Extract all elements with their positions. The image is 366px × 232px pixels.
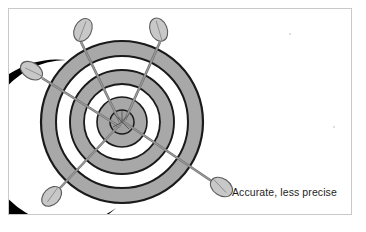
dartboard-target-illustration (8, 8, 352, 215)
speck-artifact-top (289, 33, 291, 35)
figure-root: Accurate, less precise (0, 0, 366, 232)
speck-artifact-right (333, 126, 335, 128)
figure-caption: Accurate, less precise (232, 186, 337, 199)
